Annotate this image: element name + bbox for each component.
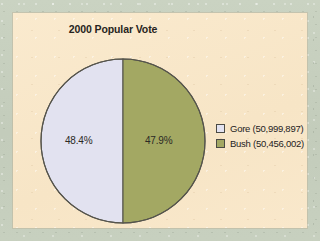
legend-item-gore[interactable]: Gore (50,999,897) — [216, 121, 320, 135]
legend-swatch-bush-icon — [216, 139, 225, 148]
chart-title: 2000 Popular Vote — [13, 23, 213, 35]
pie-label-bush: 47.9% — [145, 135, 172, 146]
legend-swatch-gore-icon — [216, 124, 225, 133]
pie-label-gore: 48.4% — [65, 135, 92, 146]
legend: Gore (50,999,897) Bush (50,456,002) — [216, 121, 320, 151]
pie-chart: 48.4% 47.9% — [40, 58, 206, 224]
legend-item-bush[interactable]: Bush (50,456,002) — [216, 136, 320, 150]
legend-label-bush: Bush (50,456,002) — [230, 138, 304, 149]
chart-panel: 2000 Popular Vote 48.4% 47.9% Gore (50,9… — [13, 13, 307, 228]
figure-root: 2000 Popular Vote 48.4% 47.9% Gore (50,9… — [0, 0, 320, 241]
legend-label-gore: Gore (50,999,897) — [230, 123, 303, 134]
